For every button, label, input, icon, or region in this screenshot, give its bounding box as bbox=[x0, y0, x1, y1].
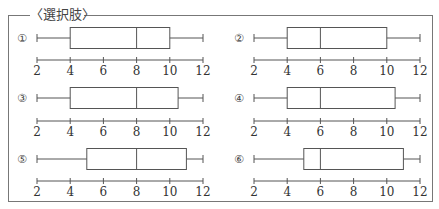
choice-label: ① bbox=[17, 32, 27, 45]
x-tick-label: 2 bbox=[250, 185, 258, 199]
x-tick-label: 12 bbox=[195, 185, 210, 199]
box-iqr bbox=[70, 88, 178, 109]
x-tick-label: 6 bbox=[317, 125, 325, 139]
x-tick-label: 8 bbox=[133, 64, 141, 78]
x-tick-label: 8 bbox=[133, 185, 141, 199]
x-tick-label: 12 bbox=[195, 125, 210, 139]
x-tick-label: 6 bbox=[100, 64, 108, 78]
x-tick-label: 10 bbox=[162, 64, 177, 78]
x-tick-label: 10 bbox=[162, 185, 177, 199]
boxplot-panel-6: ⑥24681012 bbox=[234, 149, 428, 200]
box-iqr bbox=[70, 28, 170, 49]
x-tick-label: 8 bbox=[350, 185, 358, 199]
x-tick-label: 2 bbox=[250, 125, 258, 139]
choice-label: ③ bbox=[17, 92, 27, 105]
x-tick-label: 4 bbox=[66, 185, 74, 199]
x-tick-label: 12 bbox=[195, 64, 210, 78]
x-tick-label: 6 bbox=[317, 64, 325, 78]
box-iqr bbox=[287, 28, 387, 49]
x-tick-label: 2 bbox=[33, 125, 41, 139]
x-tick-label: 12 bbox=[412, 64, 427, 78]
x-tick-label: 2 bbox=[250, 64, 258, 78]
x-tick-label: 8 bbox=[133, 125, 141, 139]
x-tick-label: 4 bbox=[66, 64, 74, 78]
x-tick-label: 2 bbox=[33, 185, 41, 199]
boxplot-panel-4: ④24681012 bbox=[234, 88, 428, 140]
x-tick-label: 12 bbox=[412, 185, 427, 199]
x-tick-label: 10 bbox=[379, 185, 394, 199]
choice-label: ⑥ bbox=[234, 153, 244, 166]
x-tick-label: 6 bbox=[100, 185, 108, 199]
x-tick-label: 8 bbox=[350, 125, 358, 139]
x-tick-label: 6 bbox=[100, 125, 108, 139]
x-tick-label: 10 bbox=[162, 125, 177, 139]
boxplot-panel-1: ①24681012 bbox=[17, 28, 211, 79]
boxplot-panel-2: ②24681012 bbox=[234, 28, 428, 79]
x-tick-label: 2 bbox=[33, 64, 41, 78]
x-tick-label: 6 bbox=[317, 185, 325, 199]
choice-label: ⑤ bbox=[17, 153, 27, 166]
x-tick-label: 4 bbox=[283, 125, 291, 139]
x-tick-label: 4 bbox=[283, 185, 291, 199]
x-tick-label: 12 bbox=[412, 125, 427, 139]
box-iqr bbox=[304, 149, 404, 170]
boxplot-panel-5: ⑤24681012 bbox=[17, 149, 211, 200]
choice-label: ② bbox=[234, 32, 244, 45]
choice-label: ④ bbox=[234, 92, 244, 105]
x-tick-label: 8 bbox=[350, 64, 358, 78]
x-tick-label: 10 bbox=[379, 64, 394, 78]
boxplot-panel-3: ③24681012 bbox=[17, 88, 211, 140]
x-tick-label: 10 bbox=[379, 125, 394, 139]
x-tick-label: 4 bbox=[66, 125, 74, 139]
box-iqr bbox=[287, 88, 395, 109]
boxplot-grid: ①24681012②24681012③24681012④24681012⑤246… bbox=[0, 0, 439, 209]
x-tick-label: 4 bbox=[283, 64, 291, 78]
